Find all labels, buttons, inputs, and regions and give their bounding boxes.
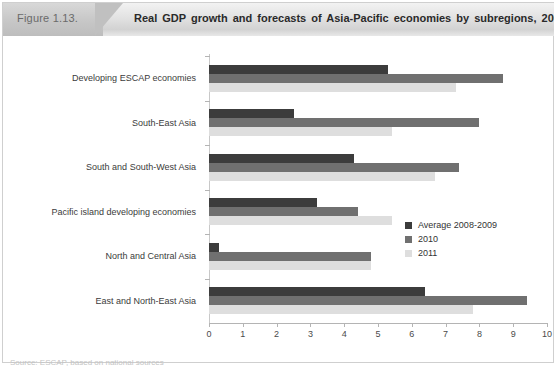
x-tick-3	[310, 323, 311, 327]
bar-2-1	[209, 163, 459, 172]
legend-row-2: 2011	[405, 246, 497, 260]
bar-1-1	[209, 118, 479, 127]
legend-swatch-2010	[405, 236, 412, 243]
x-tick-label-8: 8	[477, 329, 482, 339]
bar-3-2	[209, 216, 392, 225]
x-tick-label-10: 10	[542, 329, 552, 339]
y-axis-label-1: South-East Asia	[132, 118, 196, 128]
y-axis-label-2: South and South-West Asia	[86, 162, 196, 172]
legend-swatch-2011	[405, 250, 412, 257]
y-axis-line	[209, 54, 210, 323]
y-axis-label-0: Developing ESCAP economies	[72, 73, 196, 83]
y-axis-label-5: East and North-East Asia	[95, 296, 196, 306]
y-tick-0	[205, 56, 210, 57]
bar-1-2	[209, 127, 392, 136]
bar-4-0	[209, 243, 219, 252]
x-tick-6	[412, 323, 413, 327]
bar-5-1	[209, 296, 527, 305]
y-tick-2	[205, 145, 210, 146]
x-tick-10	[547, 323, 548, 327]
bar-3-1	[209, 207, 358, 216]
legend-swatch-average	[405, 222, 412, 229]
bar-1-0	[209, 109, 294, 118]
x-tick-5	[378, 323, 379, 327]
chart-legend: Average 2008-200920102011	[405, 218, 497, 260]
figure-number-label: Figure 1.13.	[17, 12, 78, 24]
x-tick-9	[513, 323, 514, 327]
legend-label-2: 2011	[418, 248, 437, 258]
x-tick-label-3: 3	[308, 329, 313, 339]
x-tick-label-4: 4	[342, 329, 347, 339]
bar-2-2	[209, 172, 435, 181]
y-tick-4	[205, 234, 210, 235]
bar-5-2	[209, 305, 473, 314]
x-tick-label-6: 6	[409, 329, 414, 339]
bar-5-0	[209, 287, 425, 296]
figure-tab-slant	[95, 3, 123, 36]
x-tick-label-5: 5	[375, 329, 380, 339]
bar-4-1	[209, 252, 371, 261]
y-tick-3	[205, 190, 210, 191]
figure-header: Figure 1.13. Real GDP growth and forecas…	[3, 3, 554, 36]
source-note: Source: ESCAP, based on national sources	[10, 358, 164, 366]
x-tick-1	[243, 323, 244, 327]
x-tick-label-9: 9	[511, 329, 516, 339]
x-tick-label-1: 1	[240, 329, 245, 339]
bar-4-2	[209, 261, 371, 270]
x-tick-label-7: 7	[443, 329, 448, 339]
x-tick-0	[209, 323, 210, 327]
legend-row-0: Average 2008-2009	[405, 218, 497, 232]
y-axis-label-4: North and Central Asia	[105, 251, 196, 261]
x-tick-4	[344, 323, 345, 327]
x-tick-label-0: 0	[206, 329, 211, 339]
bar-2-0	[209, 154, 354, 163]
x-tick-8	[479, 323, 480, 327]
legend-label-1: 2010	[418, 234, 438, 244]
x-tick-7	[446, 323, 447, 327]
y-tick-1	[205, 101, 210, 102]
figure-title: Real GDP growth and forecasts of Asia-Pa…	[134, 12, 554, 24]
legend-label-0: Average 2008-2009	[418, 220, 497, 230]
chart-plot-area: 012345678910 Developing ESCAP economiesS…	[0, 46, 557, 346]
y-axis-label-3: Pacific island developing economies	[51, 207, 196, 217]
figure-container: Figure 1.13. Real GDP growth and forecas…	[0, 0, 557, 366]
bar-0-2	[209, 83, 456, 92]
x-tick-label-2: 2	[274, 329, 279, 339]
x-tick-2	[277, 323, 278, 327]
bar-0-0	[209, 65, 388, 74]
legend-row-1: 2010	[405, 232, 497, 246]
bar-0-1	[209, 74, 503, 83]
bar-3-0	[209, 198, 317, 207]
y-tick-5	[205, 279, 210, 280]
